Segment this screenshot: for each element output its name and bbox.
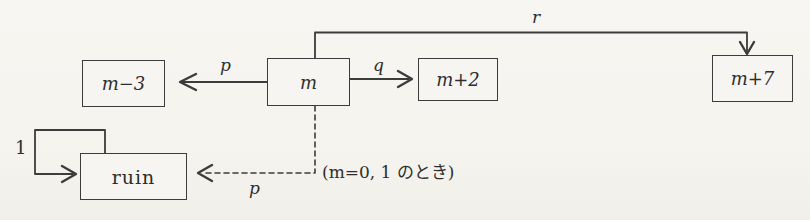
edge-label-p-left: p <box>220 57 231 74</box>
node-m-plus-2: m+2 <box>418 58 498 101</box>
edge-label-q: q <box>373 57 384 74</box>
node-ruin-label: ruin <box>112 166 156 188</box>
node-m-label: m <box>300 72 317 93</box>
edge-label-r: r <box>532 9 540 26</box>
node-m-plus-7: m+7 <box>712 55 793 102</box>
node-m: m <box>267 58 350 106</box>
node-m-plus-2-label: m+2 <box>436 69 480 90</box>
node-m-minus-3: m−3 <box>82 60 165 107</box>
edge-label-loop-1: 1 <box>15 139 26 157</box>
edge-label-p-dashed: p <box>249 180 260 197</box>
edge-p-dashed-line <box>203 106 315 173</box>
node-m-plus-7-label: m+7 <box>731 68 775 89</box>
node-m-minus-3-label: m−3 <box>102 73 146 94</box>
node-ruin: ruin <box>80 153 187 200</box>
condition-annotation: (m=0, 1 のとき) <box>322 158 454 183</box>
diagram-canvas: m−3 m m+2 m+7 ruin p q r 1 p (m=0, 1 のとき… <box>0 0 810 220</box>
